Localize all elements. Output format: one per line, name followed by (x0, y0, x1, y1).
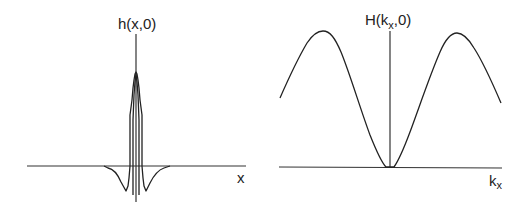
left-plot: h(x,0) x (27, 15, 246, 202)
right-plot-title: H(kx,0) (365, 11, 411, 31)
left-x-axis-label: x (237, 169, 245, 186)
left-curve-side-lobes (104, 166, 170, 191)
right-plot: H(kx,0) kx (279, 11, 503, 191)
right-x-axis-label: kx (489, 172, 503, 191)
left-plot-title: h(x,0) (118, 15, 156, 32)
figure-canvas: h(x,0) x H(kx,0) kx (0, 0, 528, 206)
